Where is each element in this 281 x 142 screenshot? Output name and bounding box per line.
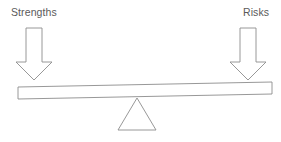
balance-diagram-svg xyxy=(0,0,281,142)
strengths-arrow-icon xyxy=(16,28,52,80)
diagram-canvas: Strengths Risks xyxy=(0,0,281,142)
balance-beam xyxy=(18,82,272,99)
risks-arrow-icon xyxy=(230,28,266,80)
risks-label: Risks xyxy=(243,6,269,18)
strengths-label: Strengths xyxy=(11,6,57,18)
fulcrum-triangle xyxy=(118,98,156,130)
